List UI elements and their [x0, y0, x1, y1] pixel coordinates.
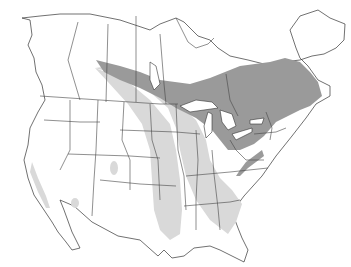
range-patch-arizona — [71, 198, 79, 208]
range-map — [0, 0, 351, 267]
range-patch-colorado — [110, 161, 118, 175]
